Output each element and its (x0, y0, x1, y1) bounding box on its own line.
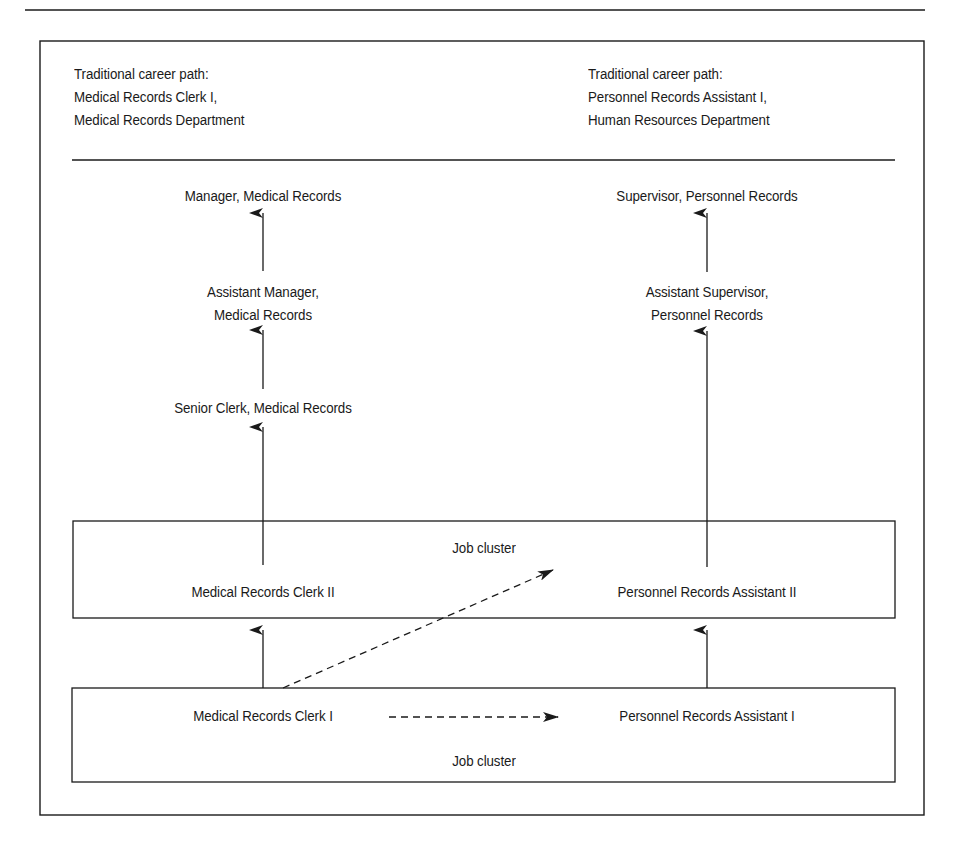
left-header-line2: Medical Records Clerk I, (74, 87, 217, 107)
left-level2-job: Senior Clerk, Medical Records (91, 398, 435, 418)
right-header-line2: Personnel Records Assistant I, (588, 87, 767, 107)
left-header-line1: Traditional career path: (74, 64, 209, 84)
upper-cluster-label: Job cluster (312, 538, 656, 558)
lower-cluster-left-job: Medical Records Clerk I (91, 706, 435, 726)
upper-cluster-left-job: Medical Records Clerk II (91, 582, 435, 602)
left-level4-job: Manager, Medical Records (91, 186, 435, 206)
right-level3-job-line2: Personnel Records (535, 305, 879, 325)
right-header-line1: Traditional career path: (588, 64, 723, 84)
right-level4-job: Supervisor, Personnel Records (535, 186, 879, 206)
left-header-line3: Medical Records Department (74, 110, 244, 130)
upper-cluster-right-job: Personnel Records Assistant II (535, 582, 879, 602)
right-header-line3: Human Resources Department (588, 110, 770, 130)
outer-frame (40, 41, 924, 815)
lower-cluster-label: Job cluster (312, 751, 656, 771)
left-level3-job-line2: Medical Records (91, 305, 435, 325)
upper-cluster-box (73, 521, 895, 618)
lower-cluster-right-job: Personnel Records Assistant I (535, 706, 879, 726)
left-level3-job-line1: Assistant Manager, (91, 282, 435, 302)
right-level3-job-line1: Assistant Supervisor, (535, 282, 879, 302)
